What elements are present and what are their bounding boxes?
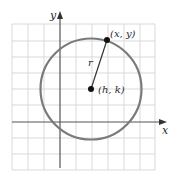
radius-label: r: [88, 57, 94, 68]
point-label: (x, y): [110, 28, 136, 39]
circle-diagram: y x (x, y) (h, k) r: [0, 0, 175, 178]
center-point: [88, 86, 94, 92]
x-axis-label: x: [162, 124, 169, 137]
center-label: (h, k): [98, 84, 125, 95]
y-axis-arrow-icon: [57, 11, 63, 19]
y-axis-label: y: [49, 9, 57, 22]
radius-line: [91, 40, 107, 89]
grid: [12, 24, 155, 170]
